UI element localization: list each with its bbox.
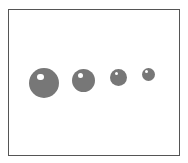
sphere-2	[72, 69, 95, 92]
sphere-highlight	[78, 73, 83, 78]
sphere-highlight	[145, 70, 148, 73]
sphere-highlight	[115, 72, 119, 76]
sphere-1	[29, 68, 59, 98]
sphere-highlight	[37, 74, 44, 81]
sphere-3	[110, 69, 127, 86]
sphere-4	[142, 68, 155, 81]
